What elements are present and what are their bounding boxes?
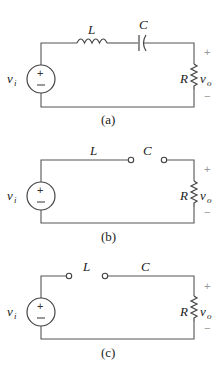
output-plus: + <box>204 280 210 292</box>
caption-b: (b) <box>101 229 116 244</box>
source-label: v <box>7 304 13 319</box>
caption-c: (c) <box>101 345 115 360</box>
resistor-icon <box>191 181 197 207</box>
output-subscript: o <box>207 311 212 321</box>
open-terminal-right <box>102 273 107 278</box>
svg-text:+: + <box>37 300 43 312</box>
voltage-source-icon: + <box>27 182 55 210</box>
resistor-icon <box>191 296 197 322</box>
resistor-label: R <box>179 304 188 319</box>
circuit-a: + L C R v i v o + − (a) <box>7 17 212 127</box>
output-minus: − <box>204 322 210 334</box>
output-plus: + <box>204 46 210 58</box>
capacitor-label: C <box>139 17 148 32</box>
resistor-label: R <box>179 188 188 203</box>
open-terminal-left <box>128 157 133 162</box>
capacitor-label: C <box>143 143 152 158</box>
voltage-source-icon: + <box>27 65 55 93</box>
output-label: v <box>200 304 206 319</box>
svg-text:+: + <box>37 67 43 79</box>
capacitor-label: C <box>141 259 150 274</box>
caption-a: (a) <box>101 112 115 127</box>
output-subscript: o <box>207 195 212 205</box>
inductor-label: L <box>82 259 90 274</box>
output-subscript: o <box>207 78 212 88</box>
voltage-source-icon: + <box>27 298 55 326</box>
inductor-label: L <box>87 22 95 37</box>
resistor-icon <box>191 64 197 90</box>
output-label: v <box>200 71 206 86</box>
output-minus: − <box>204 90 210 102</box>
circuit-figure: + L C R v i v o + − (a) + L C R v i v o … <box>0 0 224 371</box>
inductor-label: L <box>89 143 97 158</box>
source-subscript: i <box>14 311 17 321</box>
wire-left-top <box>41 43 77 65</box>
open-terminal-right <box>161 157 166 162</box>
open-terminal-left <box>66 273 71 278</box>
circuit-b: + L C R v i v o + − (b) <box>7 143 212 244</box>
output-label: v <box>200 188 206 203</box>
output-plus: + <box>204 163 210 175</box>
source-subscript: i <box>14 78 17 88</box>
svg-text:+: + <box>37 184 43 196</box>
source-label: v <box>7 71 13 86</box>
source-label: v <box>7 188 13 203</box>
resistor-label: R <box>179 71 188 86</box>
output-minus: − <box>204 206 210 218</box>
inductor-icon <box>77 39 107 43</box>
circuit-c: + L C R v i v o + − (c) <box>7 259 212 360</box>
source-subscript: i <box>14 195 17 205</box>
